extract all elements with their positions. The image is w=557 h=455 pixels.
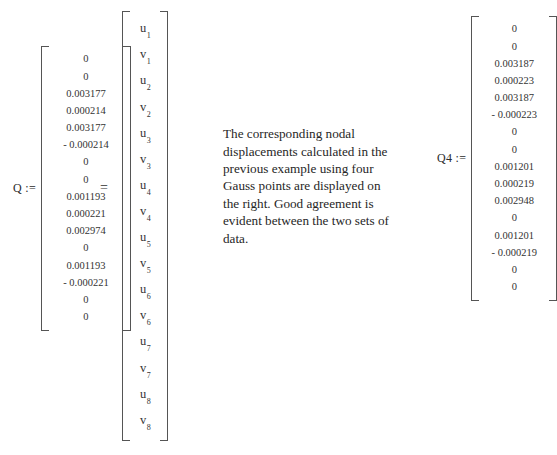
equals-operator: = xyxy=(100,180,108,196)
matrix-cell: 0 xyxy=(49,154,123,171)
matrix-cell: u3 xyxy=(130,121,160,147)
matrix-cell: 0 xyxy=(49,68,123,85)
matrix-cell: v6 xyxy=(130,304,160,330)
matrix-cell: u5 xyxy=(130,226,160,252)
matrix-cell: 0.003177 xyxy=(49,85,123,102)
matrix-cell: u4 xyxy=(130,174,160,200)
symbol-subscript: 7 xyxy=(147,371,151,380)
symbol-v7: v7 xyxy=(140,362,150,378)
matrix-cell: 0.000221 xyxy=(49,206,123,223)
symbol-u7: u7 xyxy=(140,335,150,351)
symbol-v5: v5 xyxy=(140,257,150,273)
symbol-v8: v8 xyxy=(140,414,150,430)
symbol-v1: v1 xyxy=(140,48,150,64)
bracket-left-icon xyxy=(122,11,130,441)
symbol-u1: u1 xyxy=(140,22,150,38)
symbol-subscript: 7 xyxy=(147,344,151,353)
symbol-subscript: 8 xyxy=(147,397,151,406)
symbol-subscript: 1 xyxy=(147,57,151,66)
bracket-left-icon xyxy=(41,46,49,331)
unknowns-vector-brackets: u1v1u2v2u3v3u4v4u5v5u6v6u7v7u8v8 xyxy=(122,11,168,441)
matrix-cell: 0 xyxy=(49,171,123,188)
matrix-cell: 0.001201 xyxy=(479,227,549,244)
symbol-subscript: 8 xyxy=(147,423,151,432)
matrix-cell: 0 xyxy=(479,262,549,279)
matrix-cell: 0 xyxy=(479,141,549,158)
symbol-subscript: 4 xyxy=(147,188,151,197)
matrix-cell: 0 xyxy=(479,124,549,141)
unknowns-vector-symbols: u1v1u2v2u3v3u4v4u5v5u6v6u7v7u8v8 xyxy=(130,11,160,441)
matrix-cell: 0.000219 xyxy=(479,176,549,193)
q4-vector-block: Q4 := 000.0031870.0002230.003187- 0.0002… xyxy=(437,16,557,301)
symbol-subscript: 2 xyxy=(147,83,151,92)
matrix-cell: - 0.000221 xyxy=(49,274,123,291)
q4-vector-values: 000.0031870.0002230.003187- 0.000223000.… xyxy=(479,16,549,301)
matrix-cell: 0 xyxy=(479,21,549,38)
matrix-cell: 0 xyxy=(49,292,123,309)
q-vector-brackets: 000.0031770.0002140.003177- 0.000214000.… xyxy=(41,46,131,331)
q4-vector-brackets: 000.0031870.0002230.003187- 0.000223000.… xyxy=(471,16,557,301)
symbol-v3: v3 xyxy=(140,153,150,169)
matrix-cell: 0.003187 xyxy=(479,90,549,107)
matrix-cell: 0.001193 xyxy=(49,257,123,274)
symbol-u8: u8 xyxy=(140,388,150,404)
matrix-cell: 0.002948 xyxy=(479,193,549,210)
matrix-cell: 0 xyxy=(49,51,123,68)
matrix-cell: v8 xyxy=(130,408,160,434)
matrix-cell: 0 xyxy=(49,309,123,326)
symbol-subscript: 6 xyxy=(147,318,151,327)
matrix-cell: v5 xyxy=(130,252,160,278)
matrix-cell: 0 xyxy=(479,38,549,55)
symbol-u6: u6 xyxy=(140,283,150,299)
symbol-subscript: 3 xyxy=(147,136,151,145)
symbol-subscript: 6 xyxy=(147,292,151,301)
symbol-u5: u5 xyxy=(140,231,150,247)
matrix-cell: u7 xyxy=(130,330,160,356)
matrix-cell: v7 xyxy=(130,356,160,382)
symbol-v6: v6 xyxy=(140,309,150,325)
matrix-cell: 0 xyxy=(49,240,123,257)
matrix-cell: 0.000223 xyxy=(479,73,549,90)
matrix-cell: u2 xyxy=(130,69,160,95)
matrix-cell: 0 xyxy=(479,279,549,296)
symbol-subscript: 4 xyxy=(147,214,151,223)
q-vector-values: 000.0031770.0002140.003177- 0.000214000.… xyxy=(49,46,123,331)
matrix-cell: 0.001201 xyxy=(479,159,549,176)
matrix-cell: - 0.000219 xyxy=(479,244,549,261)
symbol-subscript: 5 xyxy=(147,266,151,275)
matrix-cell: 0 xyxy=(479,210,549,227)
description-paragraph: The corresponding nodal displacements ca… xyxy=(223,125,398,247)
matrix-cell: - 0.000214 xyxy=(49,137,123,154)
unknowns-vector-block: u1v1u2v2u3v3u4v4u5v5u6v6u7v7u8v8 xyxy=(122,11,168,441)
matrix-cell: v2 xyxy=(130,95,160,121)
bracket-right-icon xyxy=(549,16,557,301)
symbol-subscript: 2 xyxy=(147,110,151,119)
q-vector-label: Q := xyxy=(13,181,41,196)
bracket-left-icon xyxy=(471,16,479,301)
symbol-v2: v2 xyxy=(140,101,150,117)
matrix-cell: 0.002974 xyxy=(49,223,123,240)
matrix-cell: v3 xyxy=(130,147,160,173)
matrix-cell: 0.001193 xyxy=(49,189,123,206)
matrix-cell: 0.000214 xyxy=(49,103,123,120)
symbol-subscript: 5 xyxy=(147,240,151,249)
matrix-cell: - 0.000223 xyxy=(479,107,549,124)
symbol-u3: u3 xyxy=(140,127,150,143)
q-vector-block: Q := 000.0031770.0002140.003177- 0.00021… xyxy=(13,46,131,331)
matrix-cell: u6 xyxy=(130,278,160,304)
symbol-u2: u2 xyxy=(140,74,150,90)
bracket-right-icon xyxy=(160,11,168,441)
symbol-v4: v4 xyxy=(140,205,150,221)
symbol-subscript: 3 xyxy=(147,162,151,171)
matrix-cell: 0.003187 xyxy=(479,55,549,72)
matrix-cell: v4 xyxy=(130,200,160,226)
matrix-cell: u1 xyxy=(130,17,160,43)
symbol-subscript: 1 xyxy=(147,31,151,40)
q4-vector-label: Q4 := xyxy=(437,151,471,166)
symbol-u4: u4 xyxy=(140,179,150,195)
matrix-cell: 0.003177 xyxy=(49,120,123,137)
matrix-cell: v1 xyxy=(130,43,160,69)
matrix-cell: u8 xyxy=(130,382,160,408)
